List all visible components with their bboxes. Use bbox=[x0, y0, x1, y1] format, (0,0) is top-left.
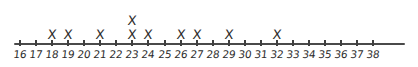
line-plot-chart: 1617181920212223242526272829303132333435… bbox=[0, 0, 418, 67]
axis-tick bbox=[260, 40, 262, 46]
axis-tick bbox=[35, 40, 37, 46]
axis-tick bbox=[308, 40, 310, 46]
x-mark: X bbox=[93, 28, 108, 41]
x-mark: X bbox=[189, 28, 204, 41]
x-mark: X bbox=[173, 28, 188, 41]
x-mark: X bbox=[125, 28, 140, 41]
axis-tick bbox=[19, 40, 21, 46]
x-mark: X bbox=[221, 28, 236, 41]
axis-tick bbox=[212, 40, 214, 46]
x-mark: X bbox=[269, 28, 284, 41]
axis-tick bbox=[372, 40, 374, 46]
axis-tick-label: 38 bbox=[362, 48, 385, 60]
x-mark: X bbox=[61, 28, 76, 41]
axis-tick bbox=[83, 40, 85, 46]
axis-tick bbox=[244, 40, 246, 46]
x-mark: X bbox=[125, 14, 140, 27]
axis-tick bbox=[115, 40, 117, 46]
number-line-axis bbox=[14, 43, 405, 45]
x-mark: X bbox=[45, 28, 60, 41]
axis-tick bbox=[356, 40, 358, 46]
axis-tick bbox=[340, 40, 342, 46]
axis-tick bbox=[292, 40, 294, 46]
x-mark: X bbox=[141, 28, 156, 41]
axis-tick bbox=[324, 40, 326, 46]
axis-tick bbox=[164, 40, 166, 46]
